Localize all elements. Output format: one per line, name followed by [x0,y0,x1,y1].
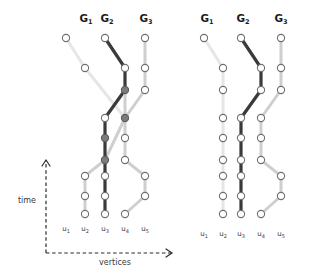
group-label-subscript: 3 [283,18,288,26]
node-open[interactable] [219,114,226,121]
node-open[interactable] [277,192,284,199]
group-label-subscript: 2 [245,18,250,26]
node-open[interactable] [141,86,148,93]
vertex-label-u1: u1 [62,225,70,234]
left-panel: G1G2G3u1u2u3u4u5 [62,12,152,234]
node-open[interactable] [121,210,128,217]
group-label-g2: G2 [236,12,249,26]
vertex-label-u3: u3 [101,225,109,234]
group-label-g3: G3 [139,12,152,26]
right-panel-edges [204,38,281,214]
group-label-g1: G1 [200,12,214,26]
node-open[interactable] [277,64,284,71]
vertex-label-subscript: 4 [126,228,129,234]
node-open[interactable] [62,34,69,41]
vertex-label-subscript: 1 [67,228,70,234]
node-open[interactable] [237,210,244,217]
vertex-label-subscript: 1 [205,233,208,239]
vertex-label-u4: u4 [257,230,265,239]
vertex-label-u5: u5 [141,225,149,234]
node-filled[interactable] [121,86,128,93]
node-open[interactable] [141,34,148,41]
node-open[interactable] [237,172,244,179]
right-panel: G1G2G3u1u2u3u4u5 [200,12,287,239]
vertex-label-subscript: 2 [224,233,227,239]
node-open[interactable] [219,172,226,179]
node-open[interactable] [141,172,148,179]
node-open[interactable] [257,210,264,217]
vertex-label-u1: u1 [200,230,208,239]
node-open[interactable] [257,156,264,163]
node-open[interactable] [277,172,284,179]
node-open[interactable] [277,34,284,41]
edge [241,90,261,118]
edge [66,38,85,68]
left-panel-edges [66,38,145,214]
node-open[interactable] [219,134,226,141]
node-open[interactable] [237,34,244,41]
vertex-label-u2: u2 [219,230,227,239]
node-open[interactable] [237,134,244,141]
group-label-g1: G1 [79,12,93,26]
vertices-axis-label: vertices [99,258,131,267]
node-filled[interactable] [121,114,128,121]
group-label-g3: G3 [274,12,287,26]
node-open[interactable] [101,192,108,199]
edge [261,90,281,118]
node-open[interactable] [219,210,226,217]
node-open[interactable] [237,192,244,199]
edge [204,38,223,68]
node-open[interactable] [219,192,226,199]
vertex-label-subscript: 4 [262,233,265,239]
node-open[interactable] [121,156,128,163]
edge [85,68,125,118]
vertex-label-subscript: 5 [282,233,285,239]
node-open[interactable] [237,156,244,163]
node-open[interactable] [219,156,226,163]
group-label-subscript: 1 [209,18,214,26]
node-filled[interactable] [101,156,108,163]
temporal-graph-diagram: G1G2G3u1u2u3u4u5G1G2G3u1u2u3u4u5timevert… [0,0,314,269]
node-open[interactable] [101,172,108,179]
group-label-subscript: 1 [88,18,93,26]
node-open[interactable] [219,64,226,71]
node-open[interactable] [277,86,284,93]
node-open[interactable] [237,114,244,121]
vertex-label-u4: u4 [121,225,129,234]
vertex-label-u2: u2 [81,225,89,234]
edge [105,38,125,68]
vertex-label-subscript: 2 [86,228,89,234]
node-open[interactable] [257,86,264,93]
node-open[interactable] [81,172,88,179]
node-open[interactable] [81,64,88,71]
node-open[interactable] [257,64,264,71]
vertex-label-u3: u3 [237,230,245,239]
time-axis-label: time [18,196,36,205]
node-open[interactable] [257,134,264,141]
node-open[interactable] [141,192,148,199]
group-label-subscript: 2 [109,18,114,26]
node-open[interactable] [200,34,207,41]
group-label-subscript: 3 [148,18,153,26]
group-label-g2: G2 [100,12,113,26]
node-open[interactable] [101,34,108,41]
node-open[interactable] [81,210,88,217]
node-open[interactable] [101,210,108,217]
edge [241,38,261,68]
node-filled[interactable] [101,134,108,141]
node-open[interactable] [121,134,128,141]
vertex-label-subscript: 3 [106,228,109,234]
node-open[interactable] [101,114,108,121]
node-open[interactable] [219,86,226,93]
node-open[interactable] [141,64,148,71]
vertex-label-u5: u5 [277,230,285,239]
node-open[interactable] [121,64,128,71]
node-open[interactable] [257,114,264,121]
vertex-label-subscript: 5 [146,228,149,234]
edge [125,90,145,118]
vertex-label-subscript: 3 [242,233,245,239]
node-open[interactable] [81,192,88,199]
